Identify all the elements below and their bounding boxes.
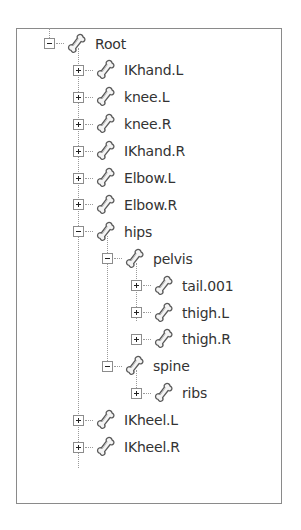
- tree-node-ikheel-l[interactable]: IKheel.L: [73, 407, 178, 434]
- bone-icon: [66, 33, 86, 55]
- tree-node-label: IKheel.R: [124, 439, 180, 455]
- expand-plus-icon[interactable]: [73, 415, 84, 426]
- bone-icon: [153, 302, 173, 324]
- tree-node-knee-l[interactable]: knee.L: [73, 84, 169, 111]
- tree-node-spine[interactable]: spine: [102, 353, 190, 380]
- tree-node-label: thigh.R: [182, 331, 231, 347]
- expand-plus-icon[interactable]: [73, 442, 84, 453]
- expand-plus-icon[interactable]: [73, 173, 84, 184]
- tree-connector: [143, 285, 151, 286]
- bone-icon: [95, 194, 115, 216]
- tree-node-root[interactable]: Root: [44, 30, 126, 57]
- tree-connector: [85, 70, 93, 71]
- collapse-minus-icon[interactable]: [73, 226, 84, 237]
- tree-node-elbow-l[interactable]: Elbow.L: [73, 165, 175, 192]
- bone-icon: [95, 409, 115, 431]
- tree-node-thigh-l[interactable]: thigh.L: [131, 299, 229, 326]
- bone-icon: [153, 328, 173, 350]
- tree-connector: [143, 312, 151, 313]
- expand-plus-icon[interactable]: [131, 307, 142, 318]
- tree-node-ikhand-r[interactable]: IKhand.R: [73, 138, 185, 165]
- bone-icon: [95, 140, 115, 162]
- tree-connector: [114, 258, 122, 259]
- tree-node-label: knee.R: [124, 116, 171, 132]
- tree-node-label: IKheel.L: [124, 412, 178, 428]
- tree-connector: [85, 151, 93, 152]
- tree-node-label: knee.L: [124, 89, 169, 105]
- bone-icon: [95, 59, 115, 81]
- bone-icon: [95, 113, 115, 135]
- tree-connector: [56, 43, 64, 44]
- tree-connector: [143, 339, 151, 340]
- tree-connector: [85, 231, 93, 232]
- tree-connector: [85, 204, 93, 205]
- tree-node-label: pelvis: [153, 251, 193, 267]
- bone-icon: [153, 382, 173, 404]
- tree-node-label: IKhand.L: [124, 62, 183, 78]
- tree-node-label: thigh.L: [182, 305, 229, 321]
- collapse-minus-icon[interactable]: [44, 38, 55, 49]
- expand-plus-icon[interactable]: [131, 334, 142, 345]
- tree-node-thigh-r[interactable]: thigh.R: [131, 326, 231, 353]
- tree-connector: [85, 420, 93, 421]
- expand-plus-icon[interactable]: [131, 388, 142, 399]
- tree-connector: [85, 178, 93, 179]
- tree-node-label: Root: [95, 36, 126, 52]
- expand-plus-icon[interactable]: [73, 146, 84, 157]
- tree-node-tail-001[interactable]: tail.001: [131, 272, 233, 299]
- tree-node-label: hips: [124, 224, 152, 240]
- bone-icon: [124, 248, 144, 270]
- tree-node-ikhand-l[interactable]: IKhand.L: [73, 57, 183, 84]
- tree-node-knee-r[interactable]: knee.R: [73, 111, 171, 138]
- expand-plus-icon[interactable]: [73, 92, 84, 103]
- expand-plus-icon[interactable]: [73, 119, 84, 130]
- collapse-minus-icon[interactable]: [102, 361, 113, 372]
- tree-node-label: spine: [153, 358, 190, 374]
- tree-connector: [114, 366, 122, 367]
- expand-plus-icon[interactable]: [73, 199, 84, 210]
- tree-node-hips[interactable]: hips: [73, 218, 152, 245]
- bone-icon: [153, 275, 173, 297]
- tree-node-label: Elbow.R: [124, 197, 177, 213]
- tree-node-label: tail.001: [182, 278, 233, 294]
- bone-icon: [95, 221, 115, 243]
- collapse-minus-icon[interactable]: [102, 253, 113, 264]
- expand-plus-icon[interactable]: [131, 280, 142, 291]
- tree-node-ribs[interactable]: ribs: [131, 380, 207, 407]
- tree-connector: [85, 97, 93, 98]
- bone-icon: [95, 436, 115, 458]
- bone-icon: [124, 355, 144, 377]
- tree-node-pelvis[interactable]: pelvis: [102, 245, 193, 272]
- tree-connector: [85, 124, 93, 125]
- tree-node-ikheel-r[interactable]: IKheel.R: [73, 434, 180, 461]
- tree-node-label: Elbow.L: [124, 170, 175, 186]
- tree-node-elbow-r[interactable]: Elbow.R: [73, 191, 177, 218]
- tree-node-label: IKhand.R: [124, 143, 185, 159]
- bone-icon: [95, 167, 115, 189]
- bone-icon: [95, 86, 115, 108]
- tree-connector: [85, 447, 93, 448]
- expand-plus-icon[interactable]: [73, 65, 84, 76]
- tree-connector: [143, 393, 151, 394]
- tree-node-label: ribs: [182, 385, 207, 401]
